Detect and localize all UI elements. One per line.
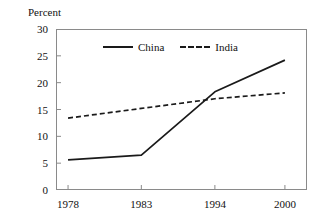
dashed-line-icon: [180, 43, 210, 51]
y-tick-label: 10: [22, 130, 48, 142]
series-line-india: [68, 93, 285, 118]
y-tick-label: 25: [22, 50, 48, 62]
x-tick-label: 1994: [191, 198, 239, 210]
chart-page: Percent 051015202530 1978198319942000 Ch…: [0, 0, 335, 223]
y-tick-label: 5: [22, 157, 48, 169]
chart-canvas: [0, 0, 335, 223]
x-axis-ticks: [68, 185, 285, 190]
x-tick-label: 2000: [261, 198, 309, 210]
y-tick-label: 20: [22, 77, 48, 89]
solid-line-icon: [103, 43, 133, 51]
series-line-china: [68, 60, 285, 160]
y-axis-ticks: [56, 56, 61, 163]
x-tick-label: 1983: [117, 198, 165, 210]
x-tick-label: 1978: [44, 198, 92, 210]
y-tick-label: 15: [22, 104, 48, 116]
y-tick-label: 0: [22, 184, 48, 196]
data-series-group: [68, 60, 285, 160]
legend-label-china: China: [138, 41, 164, 53]
chart-legend: China India: [103, 41, 238, 53]
legend-label-india: India: [215, 41, 238, 53]
y-tick-label: 30: [22, 23, 48, 35]
legend-item-india: India: [180, 41, 238, 53]
legend-item-china: China: [103, 41, 164, 53]
